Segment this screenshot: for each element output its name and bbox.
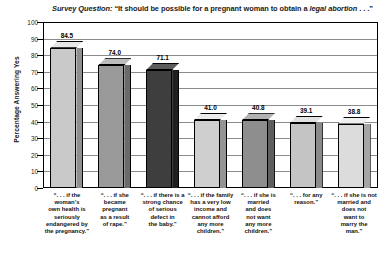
x-category-label-line: of rape.” xyxy=(91,221,139,228)
x-category-label: “. . . if the familyhas a very lowincome… xyxy=(187,192,235,235)
x-category-label-line: married and xyxy=(330,199,378,206)
x-category-label-line: the baby.” xyxy=(139,221,187,228)
bar-top-face xyxy=(146,63,179,70)
bar-front-face xyxy=(194,120,220,188)
x-category-label-line: “. . . if the family xyxy=(187,192,235,199)
x-category-label-line: want to xyxy=(330,214,378,221)
bar-front-face xyxy=(98,65,124,188)
bar xyxy=(242,113,275,188)
x-category-label-line: income and xyxy=(187,206,235,213)
bar-side-face xyxy=(316,123,323,188)
x-category-label-line: marry the xyxy=(330,221,378,228)
bar-side-face xyxy=(268,120,275,188)
x-category-label: “. . . if thewoman’sown health isserious… xyxy=(43,192,91,235)
x-category-label-line: endangered by xyxy=(43,221,91,228)
bar-value-label: 41.0 xyxy=(191,104,231,111)
x-category-label: “. . . if there is astrong chanceof seri… xyxy=(139,192,187,228)
x-category-label-line: “. . . if the xyxy=(43,192,91,199)
chart-title-emphasis: legal abortion xyxy=(310,4,358,13)
y-tick-label: 90 xyxy=(14,35,38,42)
x-category-label-line: woman’s xyxy=(43,199,91,206)
bar xyxy=(194,113,227,188)
x-category-label-line: married xyxy=(234,199,282,206)
bar-value-label: 84.5 xyxy=(47,32,87,39)
bar-top-face xyxy=(242,113,275,120)
bar-side-face xyxy=(124,65,131,188)
bars-layer: 84.574.071.141.040.839.138.8 xyxy=(43,22,378,188)
y-tick-label: 100 xyxy=(14,19,38,26)
x-category-label-line: any more xyxy=(187,221,235,228)
y-tick-label: 50 xyxy=(14,102,38,109)
bar-value-label: 74.0 xyxy=(95,49,135,56)
x-category-label-line: “. . . if she xyxy=(91,192,139,199)
bar-top-face xyxy=(50,41,83,48)
x-category-label-line: and does xyxy=(234,206,282,213)
y-tick-label: 80 xyxy=(14,52,38,59)
x-category-label-line: “. . . if there is a xyxy=(139,192,187,199)
bar xyxy=(290,116,323,188)
x-category-label-line: “. . . if she is not xyxy=(330,192,378,199)
x-axis-labels: “. . . if thewoman’sown health isserious… xyxy=(43,192,378,252)
bar-side-face xyxy=(172,70,179,188)
bar xyxy=(338,117,371,188)
chart-title: Survey Question: “It should be possible … xyxy=(52,4,384,13)
x-category-label-line: pregnant xyxy=(91,206,139,213)
bar-top-face xyxy=(338,117,371,124)
x-category-label: “. . . if she is notmarried anddoes notw… xyxy=(330,192,378,235)
chart-title-lead: Survey Question: xyxy=(52,4,112,13)
bar-top-face xyxy=(98,58,131,65)
bar-front-face xyxy=(290,123,316,188)
bar xyxy=(50,41,83,188)
x-category-label-line: children.” xyxy=(234,228,282,235)
x-category-label-line: reason.” xyxy=(282,199,330,206)
x-category-label-line: own health is xyxy=(43,206,91,213)
x-category-label-line: strong chance xyxy=(139,199,187,206)
y-tick-label: 0 xyxy=(14,185,38,192)
x-category-label-line: as a result xyxy=(91,214,139,221)
y-tick-label: 60 xyxy=(14,85,38,92)
x-category-label: “. . . if she ismarriedand doesnot wanta… xyxy=(234,192,282,235)
x-category-label: “. . . if shebecamepregnantas a resultof… xyxy=(91,192,139,228)
x-category-label-line: “. . . if she is xyxy=(234,192,282,199)
chart-title-plain-2: . . .” xyxy=(357,4,373,13)
x-category-label-line: any more xyxy=(234,221,282,228)
bar-value-label: 71.1 xyxy=(143,54,183,61)
bar-value-label: 40.8 xyxy=(238,104,278,111)
x-category-label-line: became xyxy=(91,199,139,206)
bar-top-face xyxy=(290,116,323,123)
bar-value-label: 38.8 xyxy=(334,108,374,115)
bar xyxy=(98,58,131,188)
y-tick-label: 30 xyxy=(14,135,38,142)
y-tick-mark xyxy=(37,188,43,189)
x-category-label-line: defect in xyxy=(139,214,187,221)
y-tick-label: 40 xyxy=(14,118,38,125)
x-category-label-line: “. . . for any xyxy=(282,192,330,199)
x-category-label-line: does not xyxy=(330,206,378,213)
abortion-survey-bar-chart: Survey Question: “It should be possible … xyxy=(0,0,389,253)
bar-top-face xyxy=(194,113,227,120)
bar-front-face xyxy=(146,70,172,188)
bar-front-face xyxy=(50,48,76,188)
x-category-label-line: has a very low xyxy=(187,199,235,206)
y-tick-label: 70 xyxy=(14,68,38,75)
bar-value-label: 39.1 xyxy=(286,107,326,114)
x-category-label-line: seriously xyxy=(43,214,91,221)
bar-side-face xyxy=(220,120,227,188)
x-category-label-line: of serious xyxy=(139,206,187,213)
bar-side-face xyxy=(76,48,83,188)
bar xyxy=(146,63,179,188)
x-category-label: “. . . for anyreason.” xyxy=(282,192,330,206)
y-tick-label: 10 xyxy=(14,168,38,175)
x-category-label-line: man.” xyxy=(330,228,378,235)
x-category-label-line: the pregnancy.” xyxy=(43,228,91,235)
x-category-label-line: children.” xyxy=(187,228,235,235)
x-category-label-line: not want xyxy=(234,214,282,221)
bar-side-face xyxy=(364,124,371,188)
bar-front-face xyxy=(242,120,268,188)
chart-title-plain-1: “It should be possible for a pregnant wo… xyxy=(112,4,309,13)
x-category-label-line: cannot afford xyxy=(187,214,235,221)
y-tick-label: 20 xyxy=(14,151,38,158)
bar-front-face xyxy=(338,124,364,188)
